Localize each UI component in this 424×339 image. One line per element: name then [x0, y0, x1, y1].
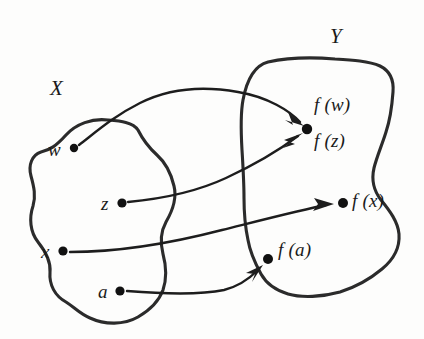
image-label-f-x: f (x) — [352, 191, 384, 210]
dot-x — [58, 246, 67, 255]
element-label-x: x — [41, 242, 50, 261]
dot-f-x — [338, 198, 348, 208]
element-label-w: w — [48, 140, 61, 159]
arrow-a-to-fa — [127, 270, 258, 294]
image-label-f-w: f (w) — [314, 95, 350, 114]
function-mapping-diagram: X Y w z x a f (w) f (z) f (x) f (a) — [0, 0, 424, 339]
image-label-f-z: f (z) — [314, 131, 345, 150]
set-label-x: X — [50, 78, 63, 99]
diagram-canvas — [0, 0, 424, 339]
dot-a — [115, 286, 124, 295]
dot-f-a — [263, 254, 273, 264]
element-label-a: a — [98, 282, 108, 301]
set-label-y: Y — [330, 26, 342, 47]
arrowhead-x-to-fx — [313, 198, 334, 211]
arrow-w-to-fw — [79, 89, 300, 145]
arrowhead-w-to-fw — [285, 112, 304, 126]
dot-w — [70, 144, 78, 152]
arrowhead-z-to-fz — [283, 133, 303, 148]
arrow-z-to-fz — [128, 136, 298, 202]
dot-f-wz — [302, 124, 312, 134]
element-label-z: z — [101, 194, 109, 213]
dot-z — [117, 198, 126, 207]
image-label-f-a: f (a) — [278, 240, 311, 259]
